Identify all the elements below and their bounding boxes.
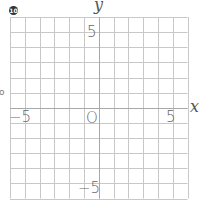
y-tick-label-neg5: −5	[78, 181, 100, 196]
origin-label: O	[86, 111, 98, 126]
x-axis-label: x	[190, 99, 199, 115]
stray-mark: o	[0, 88, 5, 97]
problem-number-badge: 10	[9, 6, 18, 15]
x-tick-label-5: 5	[166, 110, 176, 125]
coordinate-grid	[0, 0, 203, 209]
y-axis-label: y	[94, 0, 103, 13]
x-tick-label-neg5: −5	[9, 110, 31, 125]
y-tick-label-5: 5	[87, 25, 97, 40]
